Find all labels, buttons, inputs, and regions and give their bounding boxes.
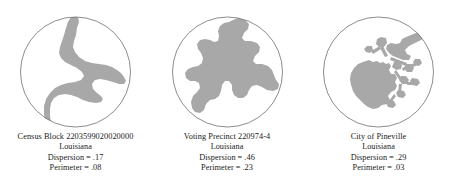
shape-city-northeast-arm <box>386 30 429 60</box>
panel-state: Louisiana <box>152 142 303 152</box>
perimeter-equals: = <box>385 163 394 172</box>
dispersion-value: .46 <box>244 153 255 162</box>
dispersion-metric: Dispersion=.29 <box>303 153 454 163</box>
dispersion-value: .29 <box>396 153 407 162</box>
shape-blocky-precinct <box>185 18 279 113</box>
dispersion-metric: Dispersion=.46 <box>152 153 303 163</box>
panel-census-block: Census Block 2203599020020000 Louisiana … <box>0 0 151 190</box>
perimeter-metric: Perimeter=.23 <box>152 163 303 173</box>
panel-title: City of Pineville <box>303 132 454 142</box>
caption-voting-precinct: Voting Precinct 220974-4 Louisiana Dispe… <box>152 132 303 174</box>
dispersion-equals: = <box>387 153 396 162</box>
dispersion-equals: = <box>84 153 93 162</box>
shape-city-north-blob <box>376 37 387 47</box>
perimeter-label: Perimeter <box>50 163 83 172</box>
panel-title: Census Block 2203599020020000 <box>0 132 151 142</box>
dispersion-metric: Dispersion=.17 <box>0 153 151 163</box>
circle-city-of-pineville <box>303 0 454 132</box>
panel-state: Louisiana <box>0 142 151 152</box>
caption-city-of-pineville: City of Pineville Louisiana Dispersion=.… <box>303 132 454 174</box>
panel-city-of-pineville: City of Pineville Louisiana Dispersion=.… <box>303 0 454 190</box>
panel-title: Voting Precinct 220974-4 <box>152 132 303 142</box>
dispersion-label: Dispersion <box>199 153 235 162</box>
panel-state: Louisiana <box>303 142 454 152</box>
shape-sinuous-river-block <box>44 17 126 129</box>
perimeter-metric: Perimeter=.08 <box>0 163 151 173</box>
perimeter-label: Perimeter <box>201 163 234 172</box>
perimeter-label: Perimeter <box>353 163 386 172</box>
dispersion-label: Dispersion <box>48 153 84 162</box>
perimeter-equals: = <box>82 163 91 172</box>
panel-voting-precinct: Voting Precinct 220974-4 Louisiana Dispe… <box>152 0 303 190</box>
perimeter-value: .03 <box>394 163 405 172</box>
circle-voting-precinct <box>152 0 303 132</box>
circle-census-block <box>0 0 151 132</box>
caption-census-block: Census Block 2203599020020000 Louisiana … <box>0 132 151 174</box>
perimeter-metric: Perimeter=.03 <box>303 163 454 173</box>
perimeter-value: .23 <box>242 163 253 172</box>
dispersion-value: .17 <box>93 153 104 162</box>
perimeter-value: .08 <box>91 163 102 172</box>
compactness-figure: Census Block 2203599020020000 Louisiana … <box>0 0 454 190</box>
dispersion-label: Dispersion <box>351 153 387 162</box>
shape-city-connector-4 <box>407 82 414 85</box>
